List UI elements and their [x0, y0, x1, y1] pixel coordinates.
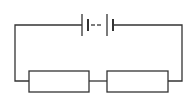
resistor-1	[29, 71, 89, 92]
resistor-2	[107, 71, 168, 92]
wire-top-left	[15, 25, 82, 81]
wire-top-right	[113, 25, 182, 81]
battery-icon	[82, 14, 113, 36]
circuit-diagram	[0, 0, 195, 100]
